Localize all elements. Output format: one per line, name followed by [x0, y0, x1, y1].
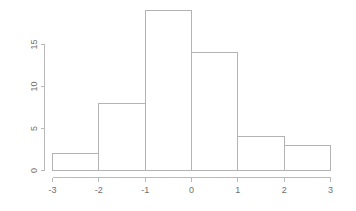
- y-axis-tick-label: 10: [29, 81, 39, 91]
- x-axis-ticks: [53, 178, 331, 182]
- x-axis-tick-labels: -3-2-10123: [48, 185, 333, 195]
- x-axis: -3-2-10123: [48, 178, 333, 195]
- y-axis-ticks: [41, 45, 45, 171]
- histogram-bar: [53, 154, 99, 171]
- x-axis-tick-label: 2: [282, 185, 287, 195]
- y-axis-tick-label: 5: [29, 126, 39, 131]
- histogram-bar: [238, 137, 284, 171]
- x-axis-tick-label: -2: [95, 185, 103, 195]
- histogram-bar: [99, 103, 145, 170]
- histogram-bar: [145, 11, 191, 171]
- histogram-bar: [284, 145, 330, 170]
- y-axis-tick-labels: 051015: [29, 39, 39, 173]
- bars-group: [53, 11, 331, 171]
- x-axis-tick-label: 1: [235, 185, 240, 195]
- x-axis-tick-label: 0: [189, 185, 194, 195]
- histogram-plot: -3-2-10123 051015: [0, 0, 356, 211]
- x-axis-tick-label: -1: [141, 185, 149, 195]
- y-axis-tick-label: 0: [29, 168, 39, 173]
- x-axis-tick-label: -3: [48, 185, 56, 195]
- histogram-bar: [192, 53, 238, 171]
- y-axis-tick-label: 15: [29, 39, 39, 49]
- histogram-canvas: -3-2-10123 051015: [0, 0, 356, 211]
- x-axis-tick-label: 3: [328, 185, 333, 195]
- y-axis: 051015: [29, 39, 45, 173]
